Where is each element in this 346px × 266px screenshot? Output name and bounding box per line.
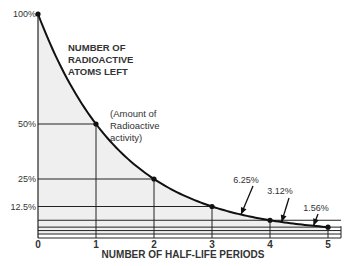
data-point xyxy=(35,11,40,16)
data-point xyxy=(93,121,98,126)
annotation-activity: (Amount of xyxy=(110,108,157,119)
data-point xyxy=(209,204,214,209)
data-point xyxy=(325,225,330,230)
annotation-percent: 3.12% xyxy=(267,186,293,196)
annotation-activity: Radioactive xyxy=(110,120,160,131)
annotation-percent: 6.25% xyxy=(233,175,259,185)
x-tick-label: 5 xyxy=(325,239,331,250)
y-tick-label: 25% xyxy=(18,174,36,184)
annotation-atoms-left: ATOMS LEFT xyxy=(68,66,128,77)
annotation-percent: 1.56% xyxy=(303,203,329,213)
data-point xyxy=(267,218,272,223)
pointer-arrowhead xyxy=(313,218,319,226)
annotation-atoms-left: NUMBER OF xyxy=(68,42,126,53)
x-tick-label: 1 xyxy=(93,239,99,250)
y-tick-label: 100% xyxy=(13,9,36,19)
half-life-chart: 012345100%50%25%12.5% NUMBER OFRADIOACTI… xyxy=(0,0,346,266)
data-point xyxy=(151,176,156,181)
y-tick-label: 50% xyxy=(18,119,36,129)
x-tick-label: 4 xyxy=(267,239,273,250)
annotation-atoms-left: RADIOACTIVE xyxy=(68,54,133,65)
y-tick-label: 12.5% xyxy=(10,202,36,212)
pointer-arrowhead xyxy=(281,214,287,222)
x-axis-label: NUMBER OF HALF-LIFE PERIODS xyxy=(102,249,265,260)
annotation-activity: activity) xyxy=(110,132,142,143)
x-tick-label: 0 xyxy=(35,239,41,250)
